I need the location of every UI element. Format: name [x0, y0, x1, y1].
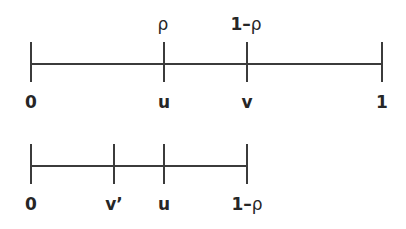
- label-line2-below-one-minus-rho: 1–ρ: [231, 196, 262, 213]
- label-line2-below-u: u: [158, 196, 170, 213]
- number-line-2: 0 v’ u 1–ρ: [0, 0, 406, 229]
- axis-line-2: [31, 165, 247, 167]
- tick-line2-zero: [30, 144, 32, 184]
- tick-line2-u: [163, 144, 165, 184]
- figure-canvas: ρ 1–ρ 0 u v 1 0 v’ u 1–ρ: [0, 0, 406, 229]
- one-minus-rho-prefix-text: 1–: [231, 194, 251, 214]
- label-line2-below-zero: 0: [25, 196, 37, 213]
- tick-line2-v-prime: [113, 144, 115, 184]
- tick-line2-one-minus-rho: [246, 144, 248, 184]
- label-line2-below-v-prime: v’: [105, 196, 123, 213]
- one-minus-rho-rho-text: ρ: [252, 194, 263, 214]
